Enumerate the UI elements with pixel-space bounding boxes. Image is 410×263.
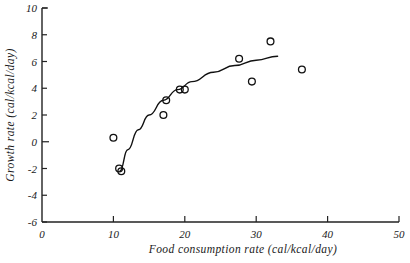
x-tick-group [113, 216, 399, 222]
y-tick-label: 2 [32, 109, 38, 121]
x-tick-label: 20 [179, 228, 191, 240]
chart-figure: -6-4-20246810 01020304050 Food consumpti… [0, 0, 410, 263]
axis-lines [42, 8, 399, 222]
data-point [299, 66, 306, 73]
y-tick-label: 4 [32, 82, 38, 94]
data-point [249, 78, 256, 85]
y-tick-label: 10 [26, 2, 38, 14]
scatter-plot: -6-4-20246810 01020304050 Food consumpti… [0, 0, 410, 263]
x-tick-label: 0 [39, 228, 45, 240]
y-tick-label: -6 [28, 216, 38, 228]
data-point [160, 112, 167, 119]
x-tick-label-group: 01020304050 [39, 228, 405, 240]
y-tick-label: -2 [28, 163, 38, 175]
y-tick-label: 6 [32, 56, 38, 68]
data-point [236, 55, 243, 62]
y-tick-group [42, 8, 49, 222]
y-tick-label: 8 [32, 29, 38, 41]
x-axis-title: Food consumption rate (cal/kcal/day) [148, 243, 337, 256]
x-tick-label: 30 [250, 228, 263, 240]
x-tick-label: 10 [108, 228, 120, 240]
data-point [267, 38, 274, 45]
y-tick-label-group: -6-4-20246810 [26, 2, 38, 228]
data-point [181, 86, 188, 93]
data-point-group [110, 38, 305, 175]
data-point [110, 134, 117, 141]
y-axis-title: Growth rate (cal/kcal/day) [4, 48, 17, 181]
fit-curve [120, 56, 278, 171]
y-tick-label: -4 [28, 189, 38, 201]
y-tick-label: 0 [32, 136, 38, 148]
x-tick-label: 50 [394, 228, 406, 240]
x-tick-label: 40 [322, 228, 334, 240]
